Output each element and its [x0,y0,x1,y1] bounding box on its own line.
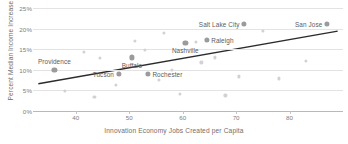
x-axis-tick-label: 50 [126,114,133,121]
plot-area: ProvidenceTucsonBuffaloRochesterNashvill… [33,8,343,111]
gridline [33,90,343,91]
x-axis-tick-label: 80 [286,114,293,121]
data-point-label: Raleigh [211,37,233,44]
scatter-chart: ProvidenceTucsonBuffaloRochesterNashvill… [0,0,348,144]
data-point-label: Salt Lake City [199,21,240,28]
trendline-segment [38,31,337,84]
data-point-label: Providence [38,58,71,65]
y-axis-tick-label: 10% [4,66,32,73]
y-axis-tick-label: 20% [4,25,32,32]
gridline [33,70,343,71]
data-point-label: Rochester [152,70,182,77]
gridline [33,29,343,30]
data-point-label: Nashville [172,47,199,54]
x-axis-tick-label: 70 [233,114,240,121]
y-axis-tick-label: 15% [4,46,32,53]
data-point-label: San Jose [295,21,322,28]
y-axis-tick-label: 25% [4,5,32,12]
x-axis-tick-label: 40 [72,114,79,121]
x-axis-line [33,111,343,112]
data-point-label: Buffalo [122,62,142,69]
y-axis-tick-label: 0% [4,108,32,115]
gridline [33,8,343,9]
data-point-label: Tucson [93,70,114,77]
x-axis-title: Innovation Economy Jobs Created per Capi… [0,127,348,134]
x-axis-tick-label: 60 [179,114,186,121]
y-axis-tick-label: 5% [4,87,32,94]
